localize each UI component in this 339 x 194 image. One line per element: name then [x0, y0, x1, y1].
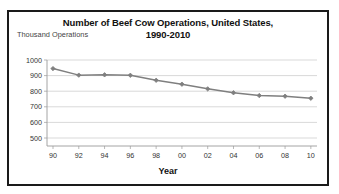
svg-text:02: 02 [204, 151, 212, 160]
svg-text:900: 900 [30, 71, 42, 80]
svg-text:10: 10 [307, 151, 315, 160]
svg-text:500: 500 [30, 134, 42, 143]
svg-text:800: 800 [30, 87, 42, 96]
svg-text:06: 06 [255, 151, 263, 160]
svg-text:600: 600 [30, 118, 42, 127]
chart-figure: Number of Beef Cow Operations, United St… [7, 10, 329, 186]
svg-text:08: 08 [281, 151, 289, 160]
x-axis-ticklabels: 9092949698000204060810 [49, 146, 315, 160]
svg-text:96: 96 [126, 151, 134, 160]
x-axis-title: Year [9, 166, 327, 176]
svg-text:92: 92 [75, 151, 83, 160]
y-axis-ticklabels: 1000900800700600500 [26, 56, 42, 143]
svg-text:04: 04 [229, 151, 237, 160]
y-gridlines [44, 60, 317, 138]
chart-svg: 1000900800700600500 90929496980002040608… [9, 12, 327, 184]
svg-text:00: 00 [178, 151, 186, 160]
svg-text:700: 700 [30, 102, 42, 111]
svg-text:98: 98 [152, 151, 160, 160]
svg-text:90: 90 [49, 151, 57, 160]
svg-text:1000: 1000 [26, 56, 42, 65]
plot-area: 1000900800700600500 90929496980002040608… [9, 12, 327, 184]
svg-text:94: 94 [101, 151, 109, 160]
